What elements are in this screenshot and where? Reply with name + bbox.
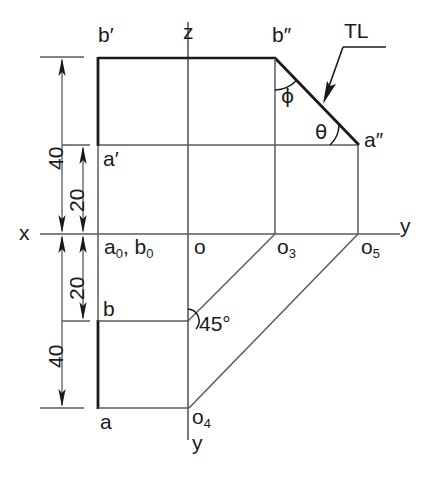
o3-sub: 3	[289, 246, 296, 261]
o4-base: o	[192, 405, 204, 428]
point-label-b: b	[103, 298, 115, 319]
point-label-a-double: a″	[364, 129, 383, 150]
point-label-b-prime: b′	[98, 24, 114, 45]
axis-label-y-right: y	[400, 215, 411, 236]
angle-label-phi: ϕ	[281, 86, 294, 106]
angle-arc-theta	[330, 125, 339, 145]
a0-base: a	[104, 235, 116, 258]
b0-base: , b	[123, 235, 146, 258]
true-length-label: TL	[344, 20, 369, 41]
projection-drawing-figure: z x y y b′ a′ b″ a″ a0, b0 o o3 o5 o4 b …	[0, 0, 436, 486]
dim-value-upper-40: 40	[45, 147, 66, 170]
o3-base: o	[277, 235, 289, 258]
dim-value-lower-40: 40	[45, 345, 66, 368]
b0-sub: 0	[146, 246, 153, 261]
point-label-a-prime: a′	[103, 148, 119, 169]
o4-sub: 4	[204, 416, 211, 431]
point-label-b-double: b″	[272, 24, 291, 45]
point-label-a: a	[100, 411, 112, 432]
point-label-o3: o3	[277, 236, 296, 257]
o5-sub: 5	[373, 246, 380, 261]
o5-base: o	[361, 235, 373, 258]
point-label-o5: o5	[361, 236, 380, 257]
axis-label-z: z	[183, 21, 194, 42]
point-label-o: o	[194, 236, 206, 257]
dim-value-lower-20: 20	[66, 277, 87, 300]
angle-label-theta: θ	[315, 122, 327, 142]
angle-label-45: 45°	[199, 313, 231, 334]
dim-value-upper-20: 20	[66, 189, 87, 212]
point-label-a0-b0: a0, b0	[104, 236, 154, 257]
axis-label-y-bottom: y	[192, 432, 203, 453]
axis-label-x: x	[19, 222, 30, 243]
a0-sub: 0	[116, 246, 123, 261]
point-label-o4: o4	[192, 406, 211, 427]
